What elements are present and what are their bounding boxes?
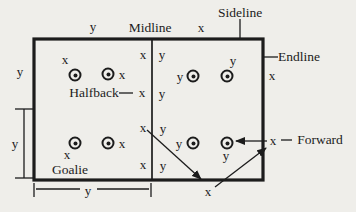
letter-marker-x: x xyxy=(269,69,276,82)
letter-marker-x: x xyxy=(119,137,126,150)
letter-marker-y: y xyxy=(85,184,92,197)
player-position-circle xyxy=(221,70,234,83)
letter-marker-y: y xyxy=(230,54,237,67)
letter-marker-x: x xyxy=(140,121,147,134)
letter-marker-y: y xyxy=(17,65,24,78)
label-endline: Endline xyxy=(278,50,320,64)
letter-marker-x: x xyxy=(205,185,212,198)
label-midline: Midline xyxy=(129,21,172,35)
label-goalie: Goalie xyxy=(52,163,88,177)
letter-marker-y: y xyxy=(160,159,167,172)
letter-marker-x: x xyxy=(119,68,126,81)
label-sideline: Sideline xyxy=(218,6,262,20)
player-position-circle xyxy=(102,68,115,81)
label-halfback: Halfback xyxy=(69,86,118,100)
letter-marker-y: y xyxy=(12,137,19,150)
label-forward: Forward xyxy=(297,133,343,147)
letter-marker-x: x xyxy=(139,86,146,99)
letter-marker-y: y xyxy=(159,87,166,100)
letter-marker-x: x xyxy=(64,148,71,161)
letter-marker-y: y xyxy=(223,149,230,162)
letter-marker-y: y xyxy=(177,70,184,83)
player-position-circle xyxy=(69,69,82,82)
letter-marker-y: y xyxy=(176,137,183,150)
player-position-circle xyxy=(187,137,200,150)
field-diagram: Midline Sideline Endline Halfback Goalie… xyxy=(0,0,356,212)
letter-marker-y: y xyxy=(90,20,97,33)
letter-marker-x: x xyxy=(140,158,147,171)
player-position-circle xyxy=(187,70,200,83)
diagram-geometry xyxy=(0,0,356,212)
letter-marker-y: y xyxy=(160,122,167,135)
letter-marker-x: x xyxy=(62,53,69,66)
letter-marker-x: x xyxy=(140,48,147,61)
letter-marker-x: x xyxy=(270,134,277,147)
player-position-circle xyxy=(102,137,115,150)
letter-marker-x: x xyxy=(198,21,205,34)
letter-marker-y: y xyxy=(159,48,166,61)
